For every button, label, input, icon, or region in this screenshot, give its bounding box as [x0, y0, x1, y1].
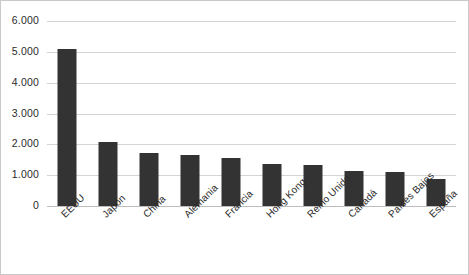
bar-series	[47, 21, 456, 206]
x-axis-tick-labels: EEUUJapónChinaAlemaniaFranciaHong KongRe…	[47, 210, 456, 272]
bar-slot	[88, 21, 129, 206]
bar-slot	[211, 21, 252, 206]
y-tick-label: 6.000	[0, 14, 39, 26]
bar-slot	[170, 21, 211, 206]
bar-slot	[252, 21, 293, 206]
y-tick-label: 4.000	[0, 76, 39, 88]
y-tick-label: 3.000	[0, 107, 39, 119]
bar-slot	[47, 21, 88, 206]
bar-slot	[374, 21, 415, 206]
y-tick-label: 5.000	[0, 45, 39, 57]
bar-chart-figure: 01.0002.0003.0004.0005.0006.000 EEUUJapó…	[0, 0, 469, 275]
y-tick-label: 0	[0, 199, 39, 211]
bar-slot	[129, 21, 170, 206]
plot-area	[47, 21, 456, 206]
y-tick-label: 1.000	[0, 168, 39, 180]
y-tick-label: 2.000	[0, 137, 39, 149]
bar[interactable]	[58, 49, 77, 206]
